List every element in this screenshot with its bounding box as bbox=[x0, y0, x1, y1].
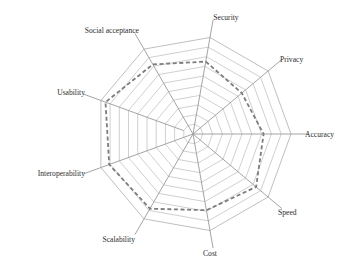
axis-label-speed: Speed bbox=[278, 208, 297, 217]
axis-spokes bbox=[84, 20, 309, 248]
spoke-social-acceptance bbox=[135, 34, 193, 135]
data-series bbox=[106, 62, 264, 211]
axis-label-social-acceptance: Social acceptance bbox=[85, 26, 140, 35]
spoke-cost bbox=[193, 134, 213, 248]
spoke-speed bbox=[193, 134, 282, 209]
axis-label-scalability: Scalability bbox=[103, 235, 136, 244]
series-polygon bbox=[106, 62, 264, 211]
spoke-usability bbox=[84, 94, 184, 130]
axis-label-privacy: Privacy bbox=[280, 55, 303, 64]
spoke-privacy bbox=[193, 59, 282, 134]
spoke-scalability bbox=[135, 134, 193, 235]
spoke-interoperability bbox=[84, 134, 193, 174]
axis-label-cost: Cost bbox=[203, 249, 218, 258]
axis-label-security: Security bbox=[213, 13, 239, 22]
axis-label-accuracy: Accuracy bbox=[305, 130, 334, 139]
radar-chart: SecurityPrivacyAccuracySpeedCostScalabil… bbox=[0, 0, 363, 274]
axis-label-interoperability: Interoperability bbox=[38, 169, 85, 178]
spoke-security bbox=[193, 20, 213, 134]
axis-label-usability: Usability bbox=[57, 88, 85, 97]
axis-labels: SecurityPrivacyAccuracySpeedCostScalabil… bbox=[38, 13, 335, 258]
